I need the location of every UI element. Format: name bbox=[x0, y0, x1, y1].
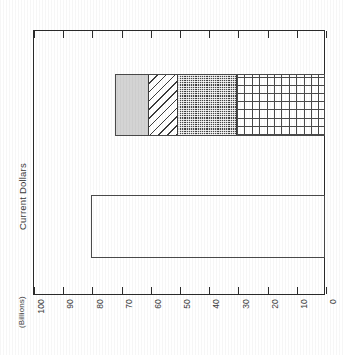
axis-tick-label: 30 bbox=[241, 299, 251, 309]
axis-tick bbox=[122, 31, 123, 38]
axis-tick bbox=[63, 287, 64, 294]
axis-tick bbox=[180, 31, 181, 38]
bar-stacked-components[interactable] bbox=[115, 74, 325, 136]
axis-tick bbox=[209, 287, 210, 294]
axis-tick-label: 90 bbox=[65, 299, 75, 309]
axis-tick bbox=[297, 31, 298, 38]
axis-tick bbox=[92, 287, 93, 294]
axis-tick-label: 20 bbox=[270, 299, 280, 309]
axis-tick bbox=[34, 287, 35, 294]
axis-units-billions: (Billions) bbox=[17, 296, 26, 328]
axis-tick bbox=[34, 31, 35, 38]
axis-tick-label: 40 bbox=[211, 299, 221, 309]
axis-tick bbox=[238, 31, 239, 38]
axis-tick bbox=[122, 287, 123, 294]
axis-tick bbox=[209, 31, 210, 38]
bar-chart: 1009080706050403020100 Current Dollars (… bbox=[0, 0, 343, 355]
axis-tick-label: 60 bbox=[153, 299, 163, 309]
axis-tick-label: 0 bbox=[328, 299, 338, 304]
axis-tick bbox=[151, 31, 152, 38]
bar-segment-2[interactable] bbox=[149, 75, 178, 135]
axis-tick bbox=[297, 287, 298, 294]
axis-tick-label: 100 bbox=[36, 299, 46, 314]
axis-tick bbox=[180, 287, 181, 294]
axis-title-current-dollars: Current Dollars bbox=[17, 163, 28, 230]
axis-tick-label: 10 bbox=[299, 299, 309, 309]
bar-total[interactable] bbox=[91, 195, 325, 258]
axis-tick-label: 70 bbox=[124, 299, 134, 309]
axis-tick-label: 80 bbox=[95, 299, 105, 309]
axis-tick bbox=[238, 287, 239, 294]
axis-tick bbox=[151, 287, 152, 294]
axis-tick-label: 50 bbox=[182, 299, 192, 309]
axis-tick bbox=[92, 31, 93, 38]
bar-segment-3[interactable] bbox=[178, 75, 236, 135]
axis-tick bbox=[268, 287, 269, 294]
axis-tick bbox=[326, 287, 327, 294]
axis-tick bbox=[326, 31, 327, 38]
bar-segment-4[interactable] bbox=[237, 75, 325, 135]
axis-tick bbox=[63, 31, 64, 38]
axis-tick bbox=[268, 31, 269, 38]
bar-segment-1[interactable] bbox=[115, 75, 150, 135]
